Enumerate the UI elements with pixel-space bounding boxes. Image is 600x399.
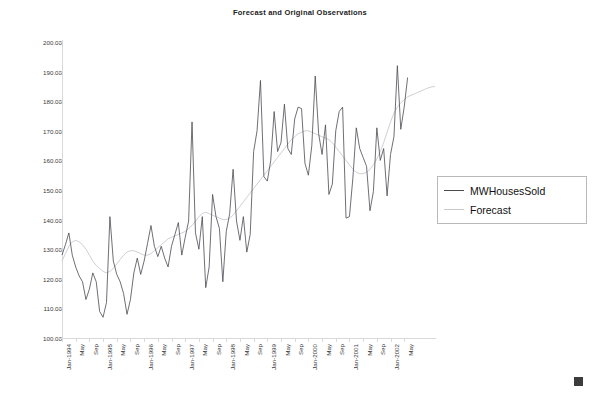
chart-legend: MWHousesSold Forecast [437, 176, 587, 224]
legend-label: Forecast [470, 204, 511, 216]
corner-marker-square [574, 377, 583, 386]
legend-line-swatch-icon [444, 190, 464, 191]
series-line-mwhousessold [62, 66, 408, 318]
legend-label: MWHousesSold [470, 185, 545, 197]
legend-line-swatch-icon [444, 209, 464, 210]
chart-container: Forecast and Original Observations 200.0… [0, 0, 600, 399]
legend-item-mwhousessold: MWHousesSold [444, 181, 586, 200]
legend-item-forecast: Forecast [444, 200, 586, 219]
